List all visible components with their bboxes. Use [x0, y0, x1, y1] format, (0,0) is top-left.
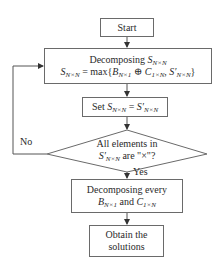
start-label: Start [118, 22, 137, 34]
decompose-node: Decomposing SN×N SN×N = max{BN×1 ⊕ C1×N,… [44, 48, 212, 84]
no-label: No [20, 136, 32, 148]
decompose-every-line2: BN×1 and C1×N [98, 196, 156, 208]
obtain-line1: Obtain the [106, 229, 148, 241]
c-sub: 1×N [151, 71, 164, 79]
decision-line1: All elements in [77, 138, 177, 150]
decision-var: S′ [99, 150, 106, 161]
decision-node-text: All elements in S′N×N are "×"? [77, 138, 177, 162]
decision-suffix: are "×"? [120, 150, 155, 161]
set-prefix: Set [92, 101, 107, 112]
yes-label: Yes [133, 166, 148, 178]
set-eq: = [126, 101, 137, 112]
decision-var-sub: N×N [106, 155, 120, 163]
lhs-sub: N×N [66, 71, 80, 79]
c-sub2: 1×N [143, 201, 156, 209]
set-text: Set SN×N = S′N×N [92, 101, 158, 113]
set-rhs: S′ [137, 101, 144, 112]
b-sub2: N×1 [104, 201, 117, 209]
start-node: Start [100, 18, 154, 37]
and-text: and [117, 196, 136, 207]
oplus: ⊕ [131, 66, 144, 77]
decompose-line1: Decomposing SN×N [89, 54, 166, 66]
decompose-every-node: Decomposing every BN×1 and C1×N [71, 179, 183, 213]
set-lhs-sub: N×N [112, 106, 126, 114]
set-rhs-sub: N×N [144, 106, 158, 114]
obtain-line2: solutions [108, 241, 144, 253]
sprime-sub: N×N [177, 71, 191, 79]
sprime-var: S′ [169, 66, 176, 77]
b-sub: N×1 [118, 71, 131, 79]
decompose-text: Decomposing [89, 54, 147, 65]
eq-max: = max{ [80, 66, 113, 77]
flowchart: Start Decomposing SN×N SN×N = max{BN×1 ⊕… [0, 0, 224, 266]
decompose-formula: SN×N = max{BN×1 ⊕ C1×N, S′N×N} [61, 66, 196, 78]
close-brace: } [191, 66, 196, 77]
decision-line2: S′N×N are "×"? [77, 150, 177, 162]
decompose-every-line1: Decomposing every [87, 184, 167, 196]
obtain-node: Obtain the solutions [89, 225, 164, 257]
set-node: Set SN×N = S′N×N [82, 97, 168, 117]
